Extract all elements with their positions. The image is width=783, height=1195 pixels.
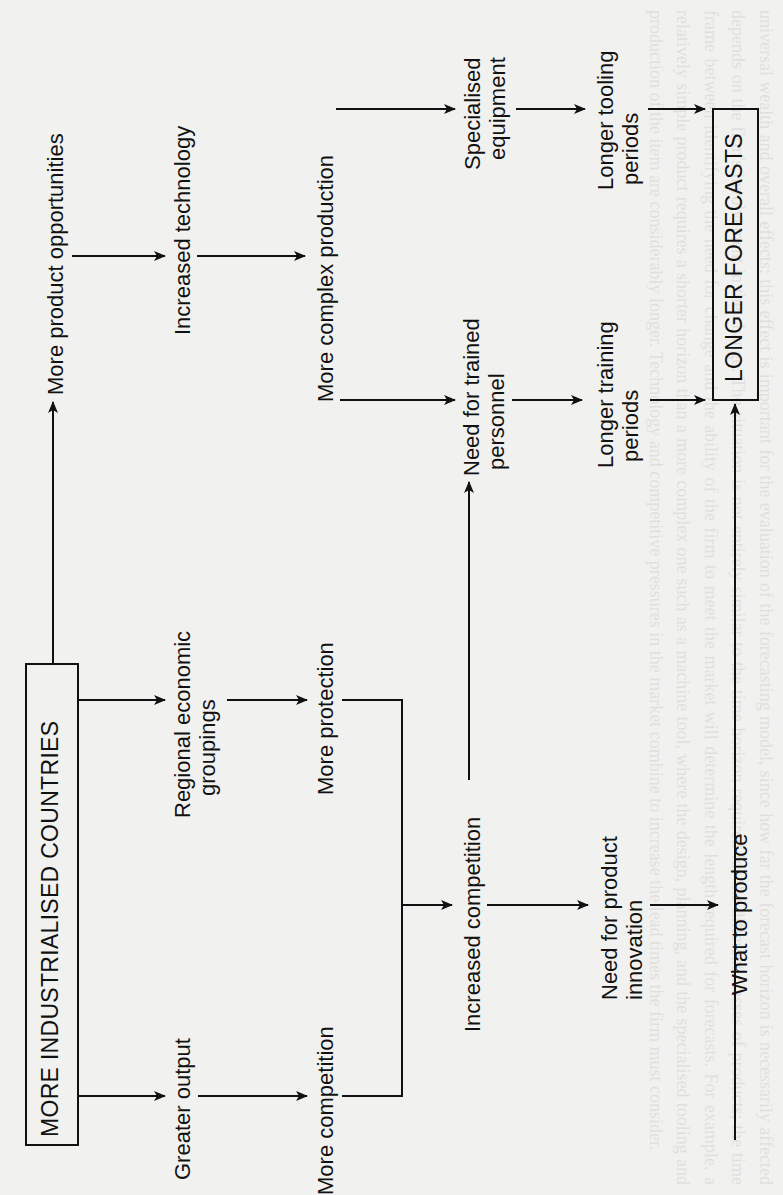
node-regional-line2: groupings: [195, 631, 220, 818]
node-specialised-equipment-line2: equipment: [485, 57, 510, 170]
diagram-connectors: [0, 0, 783, 1195]
node-regional-economic-groupings: Regional economic groupings: [170, 631, 220, 818]
node-specialised-equipment: Specialised equipment: [460, 57, 510, 170]
node-regional-line1: Regional economic: [170, 631, 195, 818]
node-longer-training-line2: periods: [618, 321, 643, 468]
node-need-innovation-line2: innovation: [622, 836, 647, 1000]
node-need-trained-line1: Need for trained: [459, 318, 484, 476]
node-longer-training-periods: Longer training periods: [593, 321, 643, 468]
node-specialised-equipment-line1: Specialised: [460, 57, 485, 170]
node-longer-tooling-line2: periods: [618, 51, 643, 190]
node-increased-competition: Increased competition: [460, 817, 485, 1032]
node-need-for-trained-personnel: Need for trained personnel: [459, 318, 509, 476]
node-more-product-opportunities: More product opportunities: [43, 133, 68, 395]
node-more-complex-production: More complex production: [313, 155, 338, 402]
node-label-longer-forecasts: LONGER FORECASTS: [722, 133, 747, 382]
node-more-competition: More competition: [313, 1026, 338, 1195]
node-need-innovation-line1: Need for product: [597, 836, 622, 1000]
node-longer-tooling-periods: Longer tooling periods: [593, 51, 643, 190]
node-increased-technology: Increased technology: [170, 126, 195, 335]
node-need-for-product-innovation: Need for product innovation: [597, 836, 647, 1000]
node-what-to-produce: What to produce: [727, 834, 752, 995]
node-longer-training-line1: Longer training: [593, 321, 618, 468]
node-need-trained-line2: personnel: [484, 318, 509, 476]
node-more-protection: More protection: [313, 642, 338, 795]
node-label-more-industrialised-countries: MORE INDUSTRIALISED COUNTRIES: [38, 721, 63, 1137]
node-greater-output: Greater output: [170, 1038, 195, 1180]
node-longer-tooling-line1: Longer tooling: [593, 51, 618, 190]
